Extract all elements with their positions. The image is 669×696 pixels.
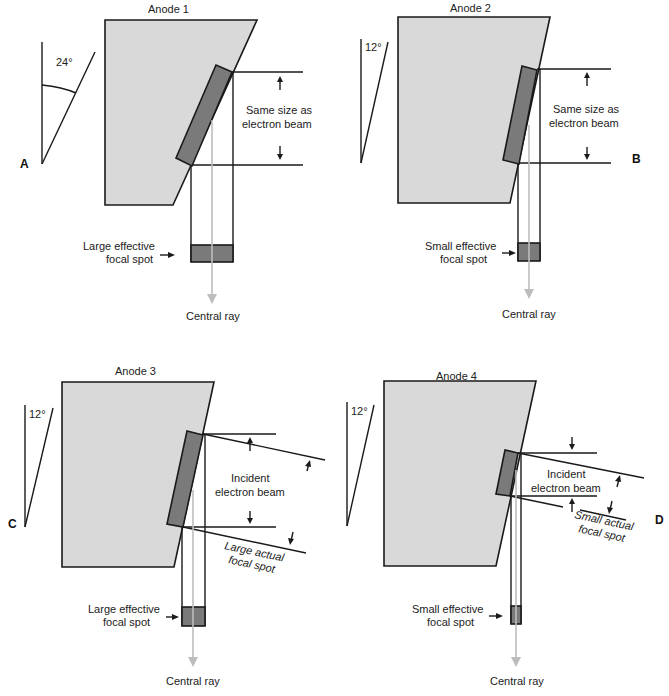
panel-letter: D xyxy=(655,513,664,527)
beam-label-line1: Same size as xyxy=(246,104,313,116)
central-ray-arrowhead xyxy=(524,289,534,299)
central-ray-label: Central ray xyxy=(186,310,240,322)
angle-indicator: 12° xyxy=(25,405,53,527)
effective-label-line2: focal spot xyxy=(440,253,487,265)
beam-label-line2: electron beam xyxy=(531,482,601,494)
arrow-right-icon xyxy=(502,250,516,256)
beam-label-line1: Incident xyxy=(231,472,270,484)
arrow-up-icon xyxy=(584,72,590,86)
angle-indicator: 12° xyxy=(361,39,388,163)
panel-d: Anode 4 12° D xyxy=(347,370,664,687)
arrow-up-icon xyxy=(277,76,283,90)
arrow-up-icon xyxy=(569,498,575,512)
panel-letter: A xyxy=(20,157,29,171)
arrow-down-icon xyxy=(569,437,575,450)
central-ray-label: Central ray xyxy=(502,308,556,320)
arrow-right-icon xyxy=(489,613,503,619)
angle-indicator: 24° xyxy=(42,42,95,164)
central-ray-label: Central ray xyxy=(166,675,220,687)
central-ray-arrowhead xyxy=(188,657,198,667)
effective-label-line1: Small effective xyxy=(425,240,496,252)
angle-label: 24° xyxy=(56,56,73,68)
beam-label-line1: Same size as xyxy=(553,103,620,115)
anode-title: Anode 1 xyxy=(148,3,189,15)
central-ray-arrowhead xyxy=(207,294,217,304)
effective-label-line1: Large effective xyxy=(88,603,160,615)
arrow-down-icon xyxy=(247,511,253,524)
effective-label-line2: focal spot xyxy=(427,616,474,628)
arrow-down-icon xyxy=(584,147,590,160)
arrow-down-icon xyxy=(288,532,294,545)
beam-label-line1: Incident xyxy=(547,468,586,480)
anode-title: Anode 2 xyxy=(450,2,491,14)
arrow-up-icon xyxy=(305,460,311,471)
angle-indicator: 12° xyxy=(347,402,374,526)
anode-title: Anode 3 xyxy=(115,365,156,377)
effective-label-line1: Large effective xyxy=(83,240,155,252)
angle-label: 12° xyxy=(351,405,368,417)
panel-a: Anode 1 24° A Same size as xyxy=(20,3,313,322)
arrow-up-icon xyxy=(615,475,621,487)
arrow-down-icon xyxy=(277,146,283,160)
beam-label-line2: electron beam xyxy=(549,117,619,129)
angle-label: 12° xyxy=(365,41,382,53)
central-ray-label: Central ray xyxy=(490,675,544,687)
effective-label-line1: Small effective xyxy=(412,603,483,615)
effective-label-line2: focal spot xyxy=(103,616,150,628)
arrow-right-icon xyxy=(160,252,175,258)
panel-letter: C xyxy=(8,517,17,531)
panel-b: Anode 2 12° B Same size as electron beam… xyxy=(361,2,641,320)
panel-c: Anode 3 12° C xyxy=(8,365,325,687)
anode-body xyxy=(105,20,257,205)
beam-label-line2: electron beam xyxy=(242,118,312,130)
effective-label-line2: focal spot xyxy=(106,253,153,265)
arrow-right-icon xyxy=(166,614,179,620)
central-ray-arrowhead xyxy=(511,657,521,667)
arrow-down-icon xyxy=(607,501,613,514)
angle-label: 12° xyxy=(29,408,46,420)
panel-letter: B xyxy=(632,152,641,166)
line-focus-principle-diagram: Anode 1 24° A Same size as xyxy=(0,0,669,696)
beam-label-line2: electron beam xyxy=(215,486,285,498)
